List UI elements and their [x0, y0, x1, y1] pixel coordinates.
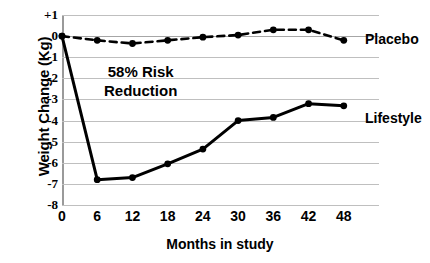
x-tick-label: 12	[112, 208, 152, 224]
series-label-lifestyle: Lifestyle	[365, 110, 422, 126]
y-tick-label: +1	[2, 7, 58, 23]
data-point-lifestyle	[340, 102, 347, 109]
series-placebo	[59, 26, 348, 47]
data-point-lifestyle	[270, 114, 277, 121]
x-tick-label: 42	[289, 208, 329, 224]
plot-area	[62, 15, 379, 205]
data-point-lifestyle	[94, 176, 101, 183]
y-tick-label: -2	[2, 70, 58, 86]
data-point-lifestyle	[199, 146, 206, 153]
x-tick-label: 24	[183, 208, 223, 224]
data-point-placebo	[199, 34, 206, 41]
x-tick-label: 18	[148, 208, 188, 224]
data-point-lifestyle	[59, 33, 66, 40]
gridline	[62, 205, 379, 206]
y-tick-label: -4	[2, 113, 58, 129]
y-tick-label: -3	[2, 91, 58, 107]
data-point-lifestyle	[164, 160, 171, 167]
annotation-line-2: Reduction	[104, 82, 177, 101]
data-point-placebo	[94, 37, 101, 44]
x-tick-label: 36	[253, 208, 293, 224]
series-line-lifestyle	[62, 36, 344, 180]
data-point-placebo	[235, 32, 242, 39]
data-point-placebo	[270, 26, 277, 33]
annotation-line-1: 58% Risk	[104, 63, 177, 82]
y-tick-label: -5	[2, 134, 58, 150]
x-tick-label: 0	[42, 208, 82, 224]
data-point-placebo	[129, 40, 136, 47]
y-tick-label: -7	[2, 176, 58, 192]
y-tick-label: -1	[2, 49, 58, 65]
weight-change-line-chart: Weight Change (Kg) +10-1-2-3-4-5-6-7-8 5…	[0, 0, 430, 263]
series-svg	[62, 15, 379, 205]
y-tick-label: 0	[2, 28, 58, 44]
data-point-placebo	[305, 26, 312, 33]
data-point-placebo	[164, 37, 171, 44]
series-label-placebo: Placebo	[365, 31, 419, 47]
data-point-lifestyle	[235, 117, 242, 124]
series-lifestyle	[59, 33, 348, 183]
data-point-lifestyle	[129, 174, 136, 181]
data-point-placebo	[340, 37, 347, 44]
x-axis-tick-labels: 0612182430364248	[62, 208, 379, 230]
x-axis-title: Months in study	[60, 236, 380, 252]
y-tick-label: -6	[2, 155, 58, 171]
data-point-lifestyle	[305, 100, 312, 107]
x-tick-label: 30	[218, 208, 258, 224]
risk-reduction-annotation: 58% Risk Reduction	[104, 63, 177, 101]
x-tick-label: 6	[77, 208, 117, 224]
x-tick-label: 48	[324, 208, 364, 224]
